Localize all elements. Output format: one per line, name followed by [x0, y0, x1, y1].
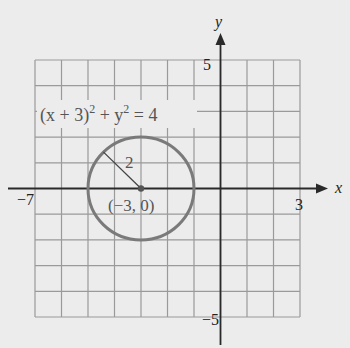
x-min-tick-label: −7 — [17, 191, 34, 208]
y-min-tick-label: −5 — [202, 311, 219, 328]
equation-label: (x + 3)2 + y2 = 4 — [40, 102, 157, 126]
center-point — [138, 185, 144, 191]
circle-graph: (x + 3)2 + y2 = 4 2 (−3, 0) −7 3 5 −5 x … — [0, 0, 350, 348]
center-label: (−3, 0) — [108, 196, 154, 215]
x-axis-arrow-icon — [316, 184, 328, 194]
radius-line — [104, 152, 141, 188]
x-max-tick-label: 3 — [295, 196, 303, 213]
radius-label: 2 — [125, 153, 134, 172]
x-axis-label: x — [334, 179, 342, 196]
y-axis-arrow-icon — [216, 33, 226, 45]
y-axis-label: y — [213, 13, 223, 31]
y-max-tick-label: 5 — [203, 56, 211, 73]
